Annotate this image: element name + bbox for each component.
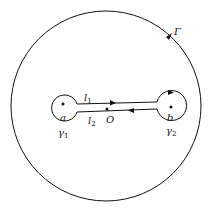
- point-o: [106, 108, 109, 111]
- label-gamma-outer: Γ: [173, 26, 182, 37]
- label-b: b: [167, 112, 173, 123]
- label-gamma-1: γ1: [58, 127, 68, 140]
- outer-contour-gamma: [11, 11, 201, 201]
- label-a: a: [60, 112, 66, 123]
- label-gamma-2: γ2: [166, 125, 176, 138]
- point-a: [62, 103, 65, 106]
- point-b: [170, 106, 173, 109]
- label-l2: l2: [88, 115, 96, 128]
- lower-segment-arrow-icon: [128, 108, 134, 113]
- upper-segment-arrow-icon: [110, 100, 116, 106]
- label-l1: l1: [84, 92, 92, 105]
- contour-diagram: a b O Γ l1 l2 γ1 γ2: [0, 0, 209, 209]
- lower-segment-l2: [77, 109, 157, 112]
- label-o: O: [106, 114, 114, 125]
